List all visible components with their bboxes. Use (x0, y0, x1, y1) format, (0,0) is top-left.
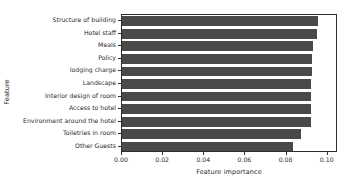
y-axis-tick-label: Meals (0, 41, 116, 48)
y-axis-tick-label: Hotel staff (0, 29, 116, 36)
y-axis-tick-label: Interior design of room (0, 92, 116, 99)
x-axis-tick-label: 0.00 (101, 156, 141, 163)
bar-row (122, 79, 336, 89)
bar-row (122, 142, 336, 152)
bar (122, 29, 317, 39)
bar (122, 117, 311, 127)
x-axis-tick-label: 0.06 (224, 156, 264, 163)
bar (122, 92, 311, 102)
x-axis-tick-mark (162, 152, 163, 155)
x-axis-tick-mark (203, 152, 204, 155)
x-axis-tick-mark (244, 152, 245, 155)
bar-row (122, 92, 336, 102)
y-axis-tick-label: Structure of building (0, 16, 116, 23)
y-axis-tick-label: Access to hotel (0, 104, 116, 111)
bar (122, 142, 293, 152)
bar (122, 41, 313, 51)
x-axis-tick-label: 0.08 (266, 156, 306, 163)
bar-row (122, 29, 336, 39)
x-axis-tick-label: 0.02 (142, 156, 182, 163)
bar (122, 79, 311, 89)
bar (122, 54, 312, 64)
x-axis-tick-mark (286, 152, 287, 155)
bar-row (122, 117, 336, 127)
bar-series (122, 15, 336, 151)
x-axis-tick-label: 0.04 (183, 156, 223, 163)
plot-area (121, 14, 337, 152)
x-axis-tick-mark (327, 152, 328, 155)
x-axis-tick-label: 0.10 (307, 156, 347, 163)
bar-row (122, 104, 336, 114)
x-axis-title: Feature importance (121, 168, 337, 176)
bar (122, 16, 318, 26)
bar-row (122, 54, 336, 64)
y-axis-tick-label: Policy (0, 54, 116, 61)
feature-importance-chart: Feature Structure of buildingHotel staff… (0, 0, 355, 183)
bar-row (122, 16, 336, 26)
y-axis-tick-label: Toiletries in room (0, 129, 116, 136)
bar (122, 129, 301, 139)
bar (122, 104, 311, 114)
x-axis-tick-mark (121, 152, 122, 155)
bar-row (122, 41, 336, 51)
y-axis-tick-label: Other Guests (0, 142, 116, 149)
y-axis-tick-label: Environment around the hotel (0, 117, 116, 124)
y-axis-tick-label: lodging charge (0, 66, 116, 73)
bar (122, 67, 312, 77)
y-axis-tick-label: Landscape (0, 79, 116, 86)
bar-row (122, 67, 336, 77)
bar-row (122, 129, 336, 139)
